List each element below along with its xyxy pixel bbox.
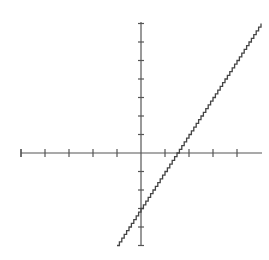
line-chart [0, 0, 269, 260]
